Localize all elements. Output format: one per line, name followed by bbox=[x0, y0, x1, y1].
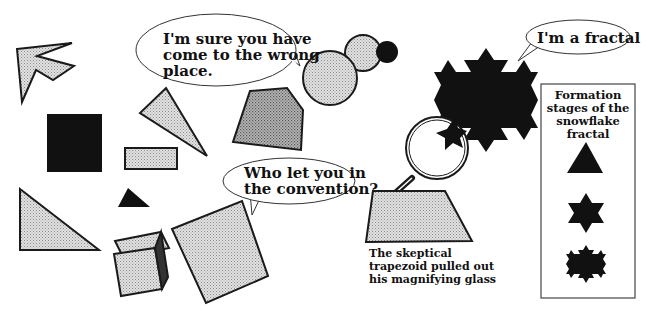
caption-line-2: trapezoid pulled out bbox=[369, 260, 495, 273]
legend-title-line-3: snowflake bbox=[556, 114, 620, 128]
right-triangle bbox=[20, 189, 99, 250]
caption-line-3: his magnifying glass bbox=[369, 273, 496, 286]
pentagon-shape bbox=[233, 88, 303, 150]
speech-bubble-fractal: I'm a fractal bbox=[518, 20, 641, 61]
small-black-circle bbox=[376, 41, 398, 63]
caption: The skeptical trapezoid pulled out his m… bbox=[369, 247, 496, 286]
magnifying-glass-icon bbox=[393, 117, 468, 195]
cube-shape bbox=[114, 232, 169, 296]
arrow-shape bbox=[17, 43, 74, 102]
trapezoid-shape bbox=[366, 191, 472, 242]
large-square bbox=[172, 201, 268, 303]
legend-title-line-2: stages of the bbox=[547, 101, 630, 115]
small-black-triangle bbox=[118, 188, 150, 207]
bubble-text-line-3: place. bbox=[163, 62, 213, 80]
black-square bbox=[47, 114, 102, 172]
speech-bubble-wrong-place: I'm sure you have come to the wrong plac… bbox=[136, 14, 320, 86]
legend-title-line-1: Formation bbox=[555, 88, 622, 102]
bubble-text: I'm a fractal bbox=[537, 29, 641, 47]
speech-bubble-convention: Who let you in the convention? bbox=[223, 158, 378, 215]
legend-title-line-4: fractal bbox=[567, 127, 610, 141]
formation-stages-legend: Formation stages of the snowflake fracta… bbox=[541, 84, 635, 298]
caption-line-1: The skeptical bbox=[369, 247, 452, 260]
bubble-text-line-2: the convention? bbox=[244, 180, 378, 198]
thin-triangle bbox=[140, 88, 207, 156]
small-rectangle bbox=[125, 148, 177, 169]
illustration-canvas: I'm sure you have come to the wrong plac… bbox=[0, 0, 652, 314]
